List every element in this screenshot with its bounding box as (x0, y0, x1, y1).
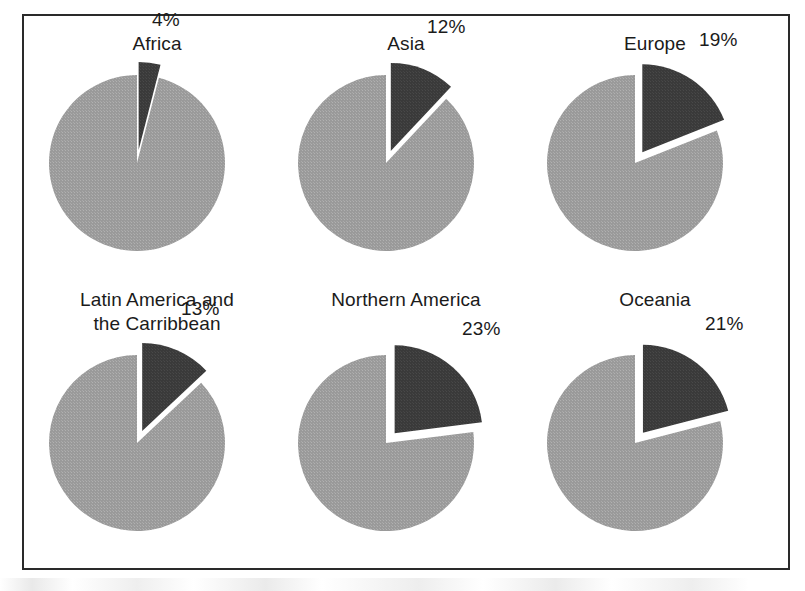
percent-label-latin-america: 13% (181, 298, 220, 320)
pie-holder-northern-america: 23% (281, 340, 531, 555)
percent-label-oceania: 21% (705, 313, 744, 335)
pie-chart-europe (530, 60, 780, 275)
pie-panel-africa: Africa 4% (32, 32, 282, 275)
pie-chart-oceania (530, 340, 780, 555)
panel-title-africa: Africa (32, 32, 282, 60)
pie-slice-remainder (49, 75, 225, 251)
percent-label-europe: 19% (699, 29, 738, 51)
pie-holder-europe: 19% (530, 60, 780, 275)
panel-title-latin-america: Latin America and the Carribbean (32, 288, 282, 340)
pie-panel-europe: Europe 19% (530, 32, 780, 275)
panel-title-asia: Asia (281, 32, 531, 60)
pie-slice-highlight (395, 345, 482, 433)
pie-holder-africa: 4% (32, 60, 282, 275)
pie-chart-latin-america (32, 340, 282, 555)
percent-label-northern-america: 23% (462, 318, 501, 340)
pie-holder-asia: 12% (281, 60, 531, 275)
pie-panel-asia: Asia 12% (281, 32, 531, 275)
pie-chart-northern-america (281, 340, 531, 555)
figure-frame: Africa 4% Asia 12% Europe 19% Latin Amer… (22, 14, 790, 570)
pie-panel-northern-america: Northern America 23% (281, 288, 531, 555)
scan-artifacts (0, 578, 805, 591)
panel-title-europe: Europe (530, 32, 780, 60)
pie-chart-asia (281, 60, 531, 275)
pie-panel-latin-america: Latin America and the Carribbean 13% (32, 288, 282, 555)
pie-panel-oceania: Oceania 21% (530, 288, 780, 555)
pie-holder-oceania: 21% (530, 340, 780, 555)
percent-label-africa: 4% (152, 9, 180, 31)
pie-chart-africa (32, 60, 282, 275)
pie-slice-remainder (49, 355, 225, 531)
pie-chart-grid: Africa 4% Asia 12% Europe 19% Latin Amer… (24, 16, 788, 568)
pie-slice-remainder (298, 75, 474, 251)
percent-label-asia: 12% (427, 16, 466, 38)
pie-holder-latin-america: 13% (32, 340, 282, 555)
pie-slice-highlight (643, 345, 728, 433)
